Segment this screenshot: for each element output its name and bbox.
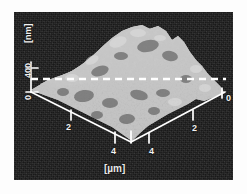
left-axis-tick-label-4: 4 (111, 147, 116, 156)
right-axis-tick-label-2: 2 (192, 124, 197, 133)
z-axis-tick-label-0: 0 (24, 95, 33, 100)
left-axis-tick-label-2: 2 (66, 123, 71, 132)
plane-unit-label: [µm] (104, 164, 125, 174)
right-axis-tick-label-4: 4 (149, 147, 154, 156)
afm-figure: [nm] 400 0 2 4 4 2 0 [µm] (0, 0, 247, 194)
z-axis-tick-label-400: 400 (24, 63, 33, 78)
z-axis-unit-label: [nm] (24, 24, 33, 44)
right-axis-tick-label-0: 0 (226, 94, 231, 103)
